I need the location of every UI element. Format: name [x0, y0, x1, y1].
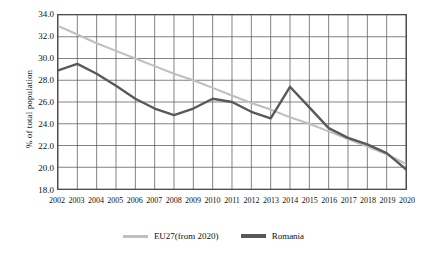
- y-tick-label: 34.0: [18, 10, 54, 19]
- y-tick-label: 30.0: [18, 54, 54, 63]
- y-tick-label: 20.0: [18, 164, 54, 173]
- legend-swatch-romania: [241, 234, 266, 238]
- y-tick-label: 32.0: [18, 32, 54, 41]
- y-tick-label: 18.0: [18, 186, 54, 195]
- y-tick-label: 26.0: [18, 98, 54, 107]
- legend-item-romania: Romania: [241, 231, 305, 241]
- legend-label-eu27: EU27(from 2020): [154, 231, 219, 241]
- legend-swatch-eu27: [123, 235, 148, 238]
- x-axis-tick-labels: 2002200320042005200620072008200920102011…: [57, 196, 407, 210]
- line-chart: % of total population 34.032.030.028.026…: [0, 0, 427, 259]
- y-tick-label: 22.0: [18, 142, 54, 151]
- series-line-eu27: [58, 26, 406, 164]
- series-lines: [58, 15, 406, 189]
- y-axis-tick-labels: 34.032.030.028.026.024.022.020.018.0: [18, 14, 54, 190]
- series-line-romania: [58, 64, 406, 169]
- plot-area: [57, 14, 407, 190]
- chart-legend: EU27(from 2020) Romania: [0, 231, 427, 241]
- y-tick-label: 28.0: [18, 76, 54, 85]
- y-tick-label: 24.0: [18, 120, 54, 129]
- legend-item-eu27: EU27(from 2020): [123, 231, 219, 241]
- legend-label-romania: Romania: [272, 231, 305, 241]
- x-tick-label: 2020: [392, 196, 422, 206]
